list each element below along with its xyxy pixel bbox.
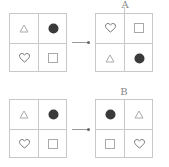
cell — [10, 14, 38, 42]
triangle-icon — [19, 110, 29, 119]
square-icon — [48, 139, 58, 149]
source-grid-b — [9, 99, 67, 158]
heart-icon — [134, 139, 145, 149]
cell — [96, 130, 124, 158]
cell — [39, 14, 67, 42]
square-icon — [134, 23, 144, 33]
cell — [10, 44, 38, 72]
triangle-icon — [105, 54, 115, 63]
option-label-a: A — [119, 0, 131, 10]
filled-circle-icon — [48, 109, 59, 120]
arrow-head-icon — [87, 128, 90, 131]
triangle-icon — [19, 24, 29, 33]
heart-icon — [105, 23, 116, 33]
result-grid-b — [95, 99, 153, 158]
triangle-icon — [134, 110, 144, 119]
heart-icon — [19, 53, 30, 63]
heart-icon — [19, 139, 30, 149]
cell — [125, 100, 153, 128]
result-grid-a — [95, 13, 153, 72]
transform-arrow — [72, 129, 89, 130]
arrow-head-icon — [87, 41, 90, 44]
filled-circle-icon — [48, 23, 59, 34]
cell — [39, 100, 67, 128]
square-icon — [48, 53, 58, 63]
cell — [39, 44, 67, 72]
cell — [96, 100, 124, 128]
option-label-b: B — [118, 87, 130, 97]
cell — [125, 130, 153, 158]
cell — [96, 44, 124, 72]
filled-circle-icon — [105, 109, 116, 120]
square-icon — [105, 139, 115, 149]
source-grid-a — [9, 13, 67, 72]
cell — [10, 100, 38, 128]
cell — [125, 14, 153, 42]
cell — [125, 44, 153, 72]
transform-arrow — [72, 42, 89, 43]
filled-circle-icon — [134, 53, 145, 64]
cell — [10, 130, 38, 158]
cell — [96, 14, 124, 42]
cell — [39, 130, 67, 158]
